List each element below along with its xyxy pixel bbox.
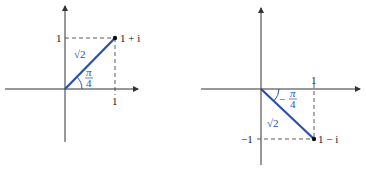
left-y-tick-label: 1 (56, 32, 62, 44)
right-point (312, 137, 316, 141)
right-point-label: 1 − i (318, 133, 338, 145)
left-angle-arc (77, 77, 82, 89)
left-diagram: 1 1 1 + i √2 π 4 (5, 6, 140, 142)
right-y-tick-label: −1 (241, 133, 253, 145)
right-vector (261, 89, 314, 139)
complex-plane-diagrams: 1 1 1 + i √2 π 4 1 −1 1 − i √2 − π 4 (0, 0, 366, 174)
right-angle-sign: − (279, 93, 285, 105)
left-angle-denominator: 4 (86, 77, 92, 89)
left-x-tick-label: 1 (112, 95, 118, 107)
right-x-tick-label: 1 (311, 74, 317, 86)
diagram-canvas: 1 1 1 + i √2 π 4 1 −1 1 − i √2 − π 4 (0, 0, 366, 174)
right-magnitude-label: √2 (267, 117, 279, 129)
left-point-label: 1 + i (120, 32, 140, 44)
right-diagram: 1 −1 1 − i √2 − π 4 (201, 8, 360, 165)
left-magnitude-label: √2 (74, 48, 86, 60)
right-angle-denominator: 4 (290, 98, 296, 110)
left-point (113, 36, 117, 40)
